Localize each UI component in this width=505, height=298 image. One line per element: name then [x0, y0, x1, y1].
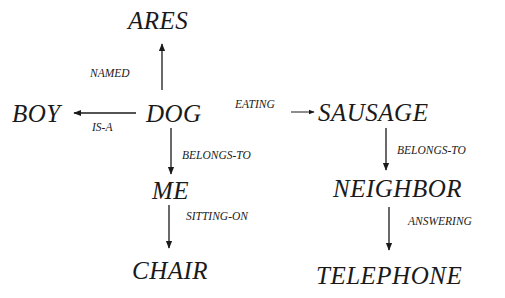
- node-boy: BOY: [12, 101, 61, 126]
- label-sitting-on: SITTING-ON: [186, 211, 248, 223]
- label-answering: ANSWERING: [408, 216, 472, 228]
- node-sausage: SAUSAGE: [318, 100, 428, 125]
- node-dog: DOG: [146, 101, 202, 126]
- node-neighbor: NEIGHBOR: [333, 176, 462, 201]
- label-named: NAMED: [90, 68, 130, 80]
- node-ares: ARES: [128, 8, 188, 33]
- label-eating: EATING: [235, 99, 275, 111]
- node-telephone: TELEPHONE: [316, 263, 462, 288]
- label-sausage-belongs-to: BELONGS-TO: [397, 145, 466, 157]
- node-me: ME: [152, 178, 189, 203]
- semantic-network-diagram: ARES BOY DOG SAUSAGE ME NEIGHBOR CHAIR T…: [0, 0, 505, 298]
- label-dog-belongs-to: BELONGS-TO: [182, 150, 251, 162]
- label-is-a: IS-A: [92, 122, 112, 134]
- node-chair: CHAIR: [132, 258, 208, 283]
